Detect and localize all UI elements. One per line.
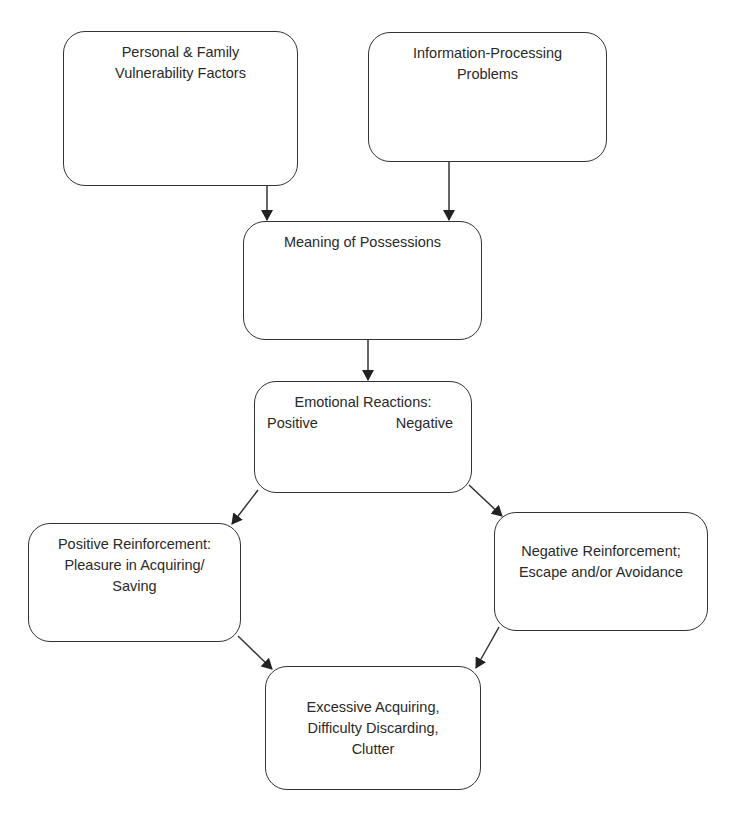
node-information-processing: Information-Processing Problems <box>368 32 607 162</box>
node-label-line: Pleasure in Acquiring/ <box>29 555 240 576</box>
node-label-line: Meaning of Possessions <box>244 232 481 253</box>
node-label-line: Information-Processing <box>369 43 606 64</box>
emotional-valence-row: Positive Negative <box>255 413 471 434</box>
node-negative-reinforcement: Negative Reinforcement; Escape and/or Av… <box>494 512 708 631</box>
node-positive-reinforcement: Positive Reinforcement: Pleasure in Acqu… <box>28 523 241 642</box>
edge-negative-to-outcome <box>476 627 499 668</box>
edge-positive-to-outcome <box>238 636 272 669</box>
node-emotional-reactions: Emotional Reactions: Positive Negative <box>254 381 472 493</box>
valence-positive: Positive <box>267 413 318 434</box>
node-title: Emotional Reactions: <box>255 392 471 413</box>
node-label-line: Positive Reinforcement: <box>29 534 240 555</box>
node-label-line: Problems <box>369 64 606 85</box>
node-personal-family-vulnerability: Personal & Family Vulnerability Factors <box>63 31 298 186</box>
node-label-line: Excessive Acquiring, <box>266 697 480 718</box>
node-meaning-of-possessions: Meaning of Possessions <box>243 221 482 340</box>
node-label-line: Saving <box>29 576 240 597</box>
node-label-line: Negative Reinforcement; <box>495 541 707 562</box>
node-label-line: Personal & Family <box>64 42 297 63</box>
node-label-line: Clutter <box>266 739 480 760</box>
valence-negative: Negative <box>396 413 453 434</box>
edge-emotional-to-negative <box>469 485 502 516</box>
edge-emotional-to-positive <box>232 490 258 524</box>
node-label-line: Vulnerability Factors <box>64 63 297 84</box>
node-label-line: Difficulty Discarding, <box>266 718 480 739</box>
node-excessive-acquiring-outcome: Excessive Acquiring, Difficulty Discardi… <box>265 666 481 790</box>
node-label-line: Escape and/or Avoidance <box>495 562 707 583</box>
